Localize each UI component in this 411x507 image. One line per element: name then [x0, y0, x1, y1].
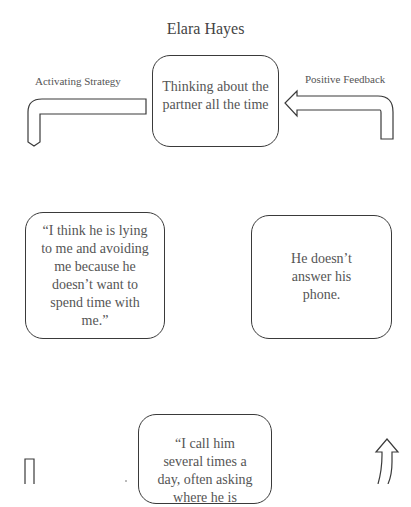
bottom-right-arrow-icon: [376, 439, 398, 484]
activating-strategy-arrow-icon: [28, 99, 146, 146]
positive-feedback-arrow-icon: [285, 91, 393, 139]
bottom-left-arrow-icon: [25, 459, 34, 484]
